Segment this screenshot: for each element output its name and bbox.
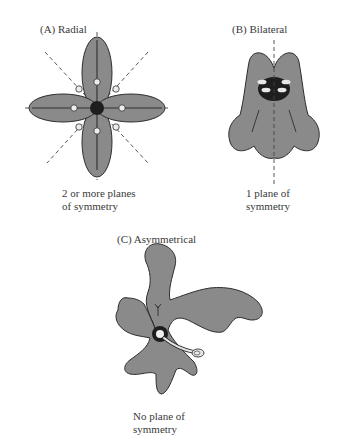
bilateral-flower (229, 40, 320, 184)
diagram-canvas (0, 0, 338, 439)
panel-b-title: (B) Bilateral (232, 23, 287, 35)
panel-a-caption: 2 or more planes of symmetry (62, 187, 136, 212)
ovary-center (90, 101, 104, 115)
panel-b-caption: 1 plane of symmetry (243, 187, 290, 212)
panel-c-title: (C) Asymmetrical (117, 233, 196, 245)
asymmetrical-flower (116, 244, 262, 394)
panel-a-title: (A) Radial (40, 23, 87, 35)
panel-c-caption: No plane of symmetry (133, 410, 185, 435)
radial-flower (25, 32, 168, 180)
